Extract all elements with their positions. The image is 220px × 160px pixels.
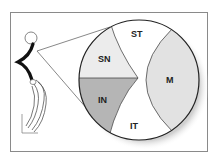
label-it: IT: [130, 122, 138, 131]
eye-globe-icon: [25, 32, 37, 44]
label-st: ST: [131, 30, 143, 39]
eye-illustration: [18, 32, 46, 133]
label-m: M: [166, 76, 174, 85]
label-sn: SN: [98, 55, 111, 64]
optic-nerve-icon: [18, 44, 33, 80]
sector-diagram: [0, 0, 220, 160]
label-in: IN: [98, 96, 107, 105]
